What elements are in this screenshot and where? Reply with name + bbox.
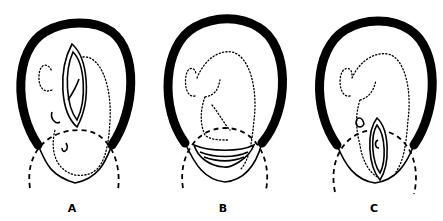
panel-a: [21, 23, 131, 190]
fetal-foot: [356, 118, 364, 127]
fetal-leg-dotted: [212, 105, 230, 130]
fetal-arm-dotted: [186, 68, 196, 96]
panel-c: [319, 21, 432, 194]
fetal-foot: [62, 143, 67, 151]
panel-label-c: C: [364, 202, 384, 215]
panel-b: [168, 19, 283, 190]
fetal-arm-dotted: [340, 68, 352, 96]
panel-label-b: B: [213, 202, 233, 215]
fetal-arm-dotted: [39, 65, 52, 91]
fetal-limb: [52, 112, 60, 123]
fetal-body-dotted: [201, 80, 228, 140]
uterine-incision-diagram: .thick { fill: none; stroke: #000; strok…: [0, 0, 443, 221]
panel-label-a: A: [62, 202, 82, 215]
